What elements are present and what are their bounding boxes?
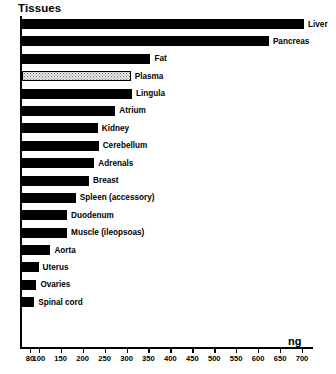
bar-row: Uterus — [22, 261, 316, 278]
bar-row: Muscle (ileopsoas) — [22, 227, 316, 244]
x-tick — [61, 348, 62, 353]
bar-uterus — [22, 262, 39, 272]
bar-series: LiverPancreasFatPlasmaLingulaAtriumKidne… — [22, 18, 316, 314]
bar-row: Fat — [22, 53, 316, 70]
bar-liver — [22, 19, 304, 29]
bar-label: Duodenum — [71, 210, 114, 221]
bar-lingula — [22, 89, 132, 99]
x-tick-label: 200 — [76, 354, 89, 363]
bar-fat — [22, 54, 150, 64]
x-tick-label: 300 — [120, 354, 133, 363]
x-tick — [236, 348, 237, 353]
bar-label: Adrenals — [98, 158, 133, 169]
bar-aorta — [22, 245, 50, 255]
bar-breast — [22, 176, 89, 186]
bar-row: Kidney — [22, 122, 316, 139]
bar-plasma — [22, 71, 131, 81]
bar-label: Muscle (ileopsoas) — [71, 227, 144, 238]
bar-label: Pancreas — [273, 36, 309, 47]
x-tick-label: 400 — [164, 354, 177, 363]
bar-spleen-accessory — [22, 193, 76, 203]
bar-row: Adrenals — [22, 157, 316, 174]
bar-label: Uterus — [43, 262, 69, 273]
bar-muscle-ileopsoas — [22, 228, 67, 238]
x-tick — [127, 348, 128, 353]
bar-row: Cerebellum — [22, 140, 316, 157]
x-tick — [280, 348, 281, 353]
bar-row: Aorta — [22, 244, 316, 261]
bar-label: Plasma — [135, 71, 164, 82]
bar-label: Aorta — [54, 245, 75, 256]
bar-label: Spleen (accessory) — [80, 192, 155, 203]
bar-label: Kidney — [102, 123, 129, 134]
bar-row: Ovaries — [22, 279, 316, 296]
bar-kidney — [22, 123, 98, 133]
x-tick — [39, 348, 40, 353]
bar-label: Spinal cord — [38, 297, 83, 308]
x-tick — [214, 348, 215, 353]
x-tick — [83, 348, 84, 353]
bar-label: Liver — [308, 19, 328, 30]
bar-row: Spleen (accessory) — [22, 192, 316, 209]
x-tick — [105, 348, 106, 353]
x-tick-label: 350 — [142, 354, 155, 363]
bar-row: Liver — [22, 18, 316, 35]
bar-ovaries — [22, 280, 36, 290]
bar-label: Ovaries — [40, 279, 70, 290]
bar-row: Duodenum — [22, 209, 316, 226]
tissue-concentration-bar-chart: Tissues LiverPancreasFatPlasmaLingulaAtr… — [0, 0, 336, 374]
x-tick — [30, 348, 31, 353]
x-tick-label: 150 — [54, 354, 67, 363]
bar-pancreas — [22, 36, 269, 46]
plot-area: LiverPancreasFatPlasmaLingulaAtriumKidne… — [20, 16, 316, 348]
x-tick-label: 700 — [296, 354, 309, 363]
bar-adrenals — [22, 158, 94, 168]
x-tick-label: 600 — [252, 354, 265, 363]
bar-spinal-cord — [22, 297, 34, 307]
x-tick — [192, 348, 193, 353]
bar-label: Atrium — [119, 105, 145, 116]
x-tick-label: 450 — [186, 354, 199, 363]
x-tick-label: 100 — [32, 354, 45, 363]
x-tick-label: 650 — [274, 354, 287, 363]
bar-row: Spinal cord — [22, 296, 316, 313]
x-tick-label: 250 — [98, 354, 111, 363]
x-tick — [148, 348, 149, 353]
bar-label: Fat — [154, 53, 166, 64]
x-axis-unit-label: ng — [288, 335, 301, 347]
x-tick — [258, 348, 259, 353]
x-axis-tick-labels: 8010015020025030035040045050055060065070… — [20, 354, 336, 366]
bar-label: Lingula — [136, 88, 165, 99]
bar-row: Plasma — [22, 70, 316, 87]
chart-title: Tissues — [18, 2, 61, 14]
bar-atrium — [22, 106, 115, 116]
bar-duodenum — [22, 210, 67, 220]
bar-row: Lingula — [22, 88, 316, 105]
bar-row: Atrium — [22, 105, 316, 122]
bar-row: Breast — [22, 175, 316, 192]
bar-row: Pancreas — [22, 35, 316, 52]
bar-label: Breast — [93, 175, 119, 186]
bar-label: Cerebellum — [103, 140, 148, 151]
x-tick-label: 500 — [208, 354, 221, 363]
x-tick — [170, 348, 171, 353]
x-tick — [302, 348, 303, 353]
x-tick-label: 550 — [230, 354, 243, 363]
bar-cerebellum — [22, 141, 99, 151]
